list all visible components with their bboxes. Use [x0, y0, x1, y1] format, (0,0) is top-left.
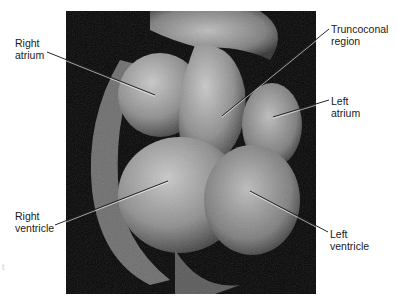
cropped-text-fragment: t: [2, 262, 5, 272]
leader-line-truncoconal-region: [222, 29, 329, 116]
label-left-ventricle: Left ventricle: [330, 228, 369, 252]
leader-line-left-ventricle: [250, 191, 328, 232]
label-truncoconal-region: Truncoconal region: [331, 23, 388, 47]
leader-line-left-ventricle: [250, 192, 328, 233]
leader-line-right-atrium: [47, 53, 155, 96]
label-right-ventricle: Right ventricle: [15, 210, 54, 234]
label-left-atrium: Left atrium: [331, 95, 360, 119]
label-right-atrium: Right atrium: [15, 37, 44, 61]
leader-line-left-atrium: [273, 101, 329, 118]
leader-line-right-ventricle: [55, 181, 168, 225]
leader-line-right-atrium: [47, 52, 155, 95]
leader-line-truncoconal-region: [222, 30, 329, 117]
leader-line-right-ventricle: [55, 182, 168, 226]
leader-line-left-atrium: [273, 100, 329, 117]
